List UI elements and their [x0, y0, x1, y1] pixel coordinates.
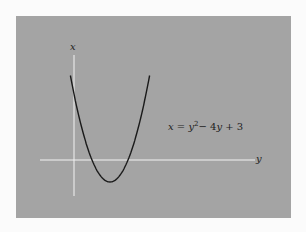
eq-term: − 4 — [199, 121, 217, 132]
horizontal-axis-label: y — [256, 154, 262, 164]
plot-area — [0, 0, 306, 232]
vertical-axis-label: x — [70, 42, 76, 52]
parabola-curve — [70, 76, 149, 183]
eq-const: + 3 — [222, 121, 243, 132]
equation-annotation: x = y2− 4y + 3 — [168, 121, 243, 132]
eq-equals: = — [174, 121, 189, 132]
